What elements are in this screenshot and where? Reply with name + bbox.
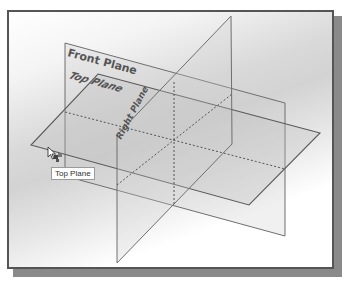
hover-tooltip: Top Plane [51,167,95,180]
planes-svg: Front Plane Top Plane Right Plane [0,0,350,284]
